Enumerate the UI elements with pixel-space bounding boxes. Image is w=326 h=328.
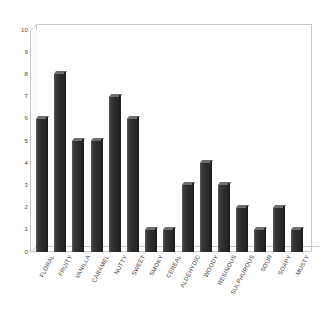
- bar-chart: 109876543210 FLORALFRUITYVANILLACARAMELN…: [0, 0, 326, 328]
- y-axis-tick-8: 8: [8, 71, 28, 78]
- bar-slot: [200, 30, 211, 252]
- bar-musty[interactable]: [291, 230, 302, 252]
- bar-side-face: [82, 139, 84, 252]
- bar-slot: [91, 30, 102, 252]
- y-axis-tick-0: 0: [8, 249, 28, 256]
- y-axis: 109876543210: [8, 18, 28, 258]
- bar-slot: [54, 30, 65, 252]
- y-axis-tick-2: 2: [8, 204, 28, 211]
- y-axis-tick-9: 9: [8, 49, 28, 56]
- bar-woody[interactable]: [200, 163, 211, 252]
- bar-resinous[interactable]: [218, 185, 229, 252]
- bar-slot: [163, 30, 174, 252]
- x-axis-label-sweet: SWEET: [131, 254, 147, 277]
- x-axis-label-vanilla: VANILLA: [74, 254, 91, 279]
- y-axis-tick-5: 5: [8, 138, 28, 145]
- bar-side-face: [119, 95, 121, 252]
- bar-sour[interactable]: [254, 230, 265, 252]
- bar-side-face: [264, 228, 266, 252]
- bar-vanilla[interactable]: [72, 141, 83, 252]
- x-axis-label-cereal: CEREAL: [166, 254, 183, 279]
- y-axis-tick-10: 10: [8, 27, 28, 34]
- y-axis-tick-1: 1: [8, 226, 28, 233]
- bar-side-face: [137, 117, 139, 252]
- bar-slot: [291, 30, 302, 252]
- bar-slot: [218, 30, 229, 252]
- x-axis-label-caramel: CARAMEL: [90, 254, 110, 284]
- bar-slot: [127, 30, 138, 252]
- bar-fruity[interactable]: [54, 74, 65, 252]
- x-axis-label-floral: FLORAL: [38, 254, 55, 278]
- bar-slot: [254, 30, 265, 252]
- bar-side-face: [210, 161, 212, 252]
- x-axis-label-soapy: SOAPY: [276, 254, 291, 276]
- y-axis-tick-7: 7: [8, 93, 28, 100]
- bar-caramel[interactable]: [91, 141, 102, 252]
- bar-slot: [273, 30, 284, 252]
- bar-slot: [182, 30, 193, 252]
- x-axis-labels: FLORALFRUITYVANILLACARAMELNUTTYSWEETSMOK…: [36, 254, 326, 328]
- bar-sulphurous[interactable]: [236, 208, 247, 252]
- bar-sweet[interactable]: [127, 119, 138, 252]
- y-axis-tick-6: 6: [8, 115, 28, 122]
- bar-cereal[interactable]: [163, 230, 174, 252]
- bar-side-face: [173, 228, 175, 252]
- bar-side-face: [46, 117, 48, 252]
- x-axis-label-sour: SOUR: [260, 254, 274, 273]
- bar-side-face: [155, 228, 157, 252]
- bar-slot: [145, 30, 156, 252]
- bar-side-face: [101, 139, 103, 252]
- bar-side-face: [301, 228, 303, 252]
- bar-side-face: [228, 183, 230, 252]
- bar-side-face: [64, 72, 66, 252]
- bar-floral[interactable]: [36, 119, 47, 252]
- x-axis-label-nutty: NUTTY: [113, 254, 128, 275]
- bar-smoky[interactable]: [145, 230, 156, 252]
- bar-side-face: [283, 206, 285, 252]
- bar-slot: [72, 30, 83, 252]
- bar-slot: [36, 30, 47, 252]
- x-axis-label-musty: MUSTY: [294, 254, 310, 276]
- x-axis-label-smoky: SMOKY: [149, 254, 165, 277]
- bar-side-face: [192, 183, 194, 252]
- x-axis-label-fruity: FRUITY: [57, 254, 73, 277]
- y-axis-tick-4: 4: [8, 160, 28, 167]
- x-axis-label-woody: WOODY: [202, 254, 219, 278]
- x-axis-label-aldehydic: ALDEHYDIC: [179, 254, 201, 289]
- bar-aldehydic[interactable]: [182, 185, 193, 252]
- bar-side-face: [246, 206, 248, 252]
- bar-nutty[interactable]: [109, 97, 120, 252]
- bar-slot: [109, 30, 120, 252]
- bars-layer: [36, 30, 312, 252]
- y-axis-tick-3: 3: [8, 182, 28, 189]
- bar-soapy[interactable]: [273, 208, 284, 252]
- bar-slot: [236, 30, 247, 252]
